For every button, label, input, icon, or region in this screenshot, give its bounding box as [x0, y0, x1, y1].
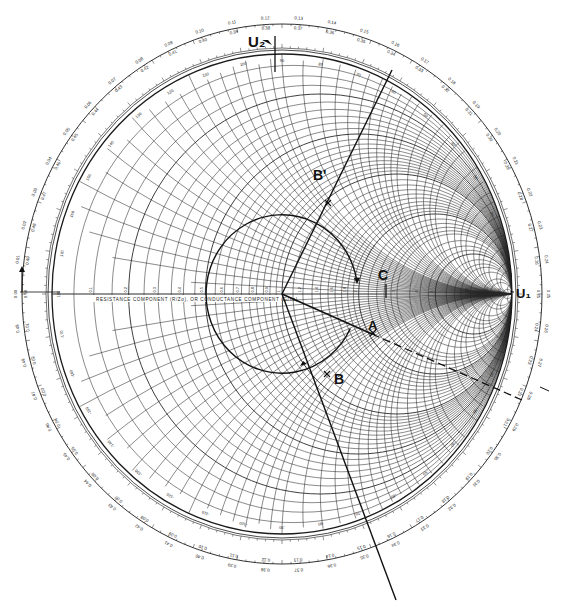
svg-text:0.25: 0.25	[546, 290, 551, 299]
svg-text:-110: -110	[200, 509, 210, 517]
svg-text:0.08: 0.08	[134, 56, 144, 65]
svg-text:0.29: 0.29	[511, 422, 520, 432]
svg-text:0.44: 0.44	[90, 106, 100, 116]
svg-text:1.2: 1.2	[297, 286, 302, 292]
svg-text:0.46: 0.46	[44, 422, 53, 432]
svg-text:-90: -90	[278, 525, 285, 530]
svg-text:0.07: 0.07	[107, 76, 117, 86]
svg-text:0.26: 0.26	[533, 256, 539, 266]
svg-text:140: 140	[107, 139, 116, 148]
svg-text:180: 180	[56, 290, 61, 297]
svg-text:0.01: 0.01	[15, 254, 21, 264]
svg-text:0.46: 0.46	[53, 160, 62, 170]
svg-text:0.06: 0.06	[83, 99, 93, 109]
svg-text:0.42: 0.42	[140, 64, 150, 73]
svg-text:0.14: 0.14	[325, 553, 335, 560]
svg-text:0.30: 0.30	[493, 452, 502, 462]
svg-text:120: 120	[166, 88, 175, 96]
svg-text:0.34: 0.34	[386, 49, 396, 57]
svg-text:0.27: 0.27	[527, 223, 534, 233]
svg-text:0.4: 0.4	[177, 286, 182, 292]
svg-text:0.47: 0.47	[30, 390, 38, 400]
svg-text:3: 3	[391, 290, 396, 293]
svg-text:0.48: 0.48	[30, 222, 37, 232]
svg-text:0.13: 0.13	[294, 15, 303, 21]
svg-text:-120: -120	[165, 492, 175, 501]
svg-text:0.45: 0.45	[70, 132, 79, 142]
svg-text:0.50: 0.50	[23, 289, 28, 298]
svg-text:0.33: 0.33	[414, 65, 424, 74]
svg-text:0.37: 0.37	[294, 25, 303, 31]
svg-text:1.8: 1.8	[342, 286, 347, 292]
svg-text:90: 90	[280, 58, 285, 63]
svg-text:0.20: 0.20	[485, 446, 494, 456]
svg-text:0.15: 0.15	[360, 27, 370, 35]
svg-text:0.8: 0.8	[250, 286, 255, 292]
svg-text:0.36: 0.36	[325, 29, 335, 36]
svg-text:1: 1	[276, 290, 281, 293]
svg-text:-140: -140	[106, 439, 115, 449]
svg-text:0.39: 0.39	[229, 29, 239, 36]
svg-text:0.37: 0.37	[294, 567, 303, 573]
svg-text:0.06: 0.06	[90, 471, 100, 481]
svg-text:0.16: 0.16	[386, 531, 396, 539]
svg-text:150: 150	[85, 172, 93, 181]
label-a: A	[368, 318, 378, 333]
svg-text:0.35: 0.35	[359, 553, 369, 561]
svg-text:1.6: 1.6	[329, 286, 334, 292]
svg-text:0.1: 0.1	[88, 286, 93, 292]
svg-text:0.14: 0.14	[327, 19, 337, 26]
svg-text:0.04: 0.04	[53, 417, 62, 427]
svg-text:160: 160	[68, 209, 75, 218]
svg-text:110: 110	[202, 71, 210, 78]
svg-text:20: 20	[484, 287, 489, 292]
svg-text:0.34: 0.34	[390, 540, 400, 548]
svg-text:0.02: 0.02	[20, 220, 27, 230]
svg-text:-130: -130	[133, 468, 143, 477]
svg-text:0.20: 0.20	[493, 127, 502, 137]
svg-text:0.22: 0.22	[526, 187, 534, 197]
svg-text:0.48: 0.48	[20, 357, 27, 367]
svg-text:-100: -100	[238, 521, 248, 527]
svg-text:0.18: 0.18	[447, 76, 457, 86]
label-u2: U₂	[248, 33, 266, 50]
svg-text:0.38: 0.38	[261, 25, 270, 31]
svg-text:0.49: 0.49	[25, 255, 31, 265]
svg-text:0.05: 0.05	[62, 126, 71, 136]
svg-text:0.31: 0.31	[464, 107, 474, 117]
svg-text:0.32: 0.32	[441, 84, 451, 94]
label-u1: U₁	[516, 286, 531, 301]
svg-text:0.19: 0.19	[464, 472, 474, 482]
axis-caption: RESISTANCE COMPONENT (R/Zo), OR CONDUCTA…	[96, 297, 298, 302]
svg-text:0.05: 0.05	[70, 445, 79, 455]
svg-text:0.17: 0.17	[420, 56, 430, 65]
svg-text:0.23: 0.23	[537, 220, 544, 230]
svg-text:0.7: 0.7	[235, 286, 240, 292]
svg-text:0.43: 0.43	[107, 502, 117, 512]
svg-text:0.01: 0.01	[24, 322, 30, 332]
svg-text:170: 170	[59, 249, 65, 257]
svg-text:0.31: 0.31	[471, 478, 481, 488]
svg-text:0.49: 0.49	[15, 324, 21, 334]
svg-text:0.9: 0.9	[264, 286, 269, 292]
svg-text:0.27: 0.27	[537, 358, 544, 368]
svg-text:0.18: 0.18	[440, 495, 450, 505]
svg-text:0.07: 0.07	[113, 494, 123, 504]
svg-text:0.09: 0.09	[167, 531, 177, 539]
svg-text:-170: -170	[59, 329, 65, 339]
svg-text:0.12: 0.12	[261, 15, 270, 21]
label-b: B	[334, 371, 344, 387]
svg-text:-50: -50	[421, 469, 429, 477]
svg-text:0.17: 0.17	[414, 515, 424, 524]
svg-text:0.42: 0.42	[134, 523, 144, 532]
svg-text:0.03: 0.03	[30, 187, 38, 197]
svg-text:0.28: 0.28	[526, 391, 534, 401]
svg-text:0.25: 0.25	[536, 290, 541, 299]
svg-text:0.04: 0.04	[44, 155, 53, 165]
svg-text:0.39: 0.39	[227, 562, 237, 569]
svg-text:-160: -160	[68, 369, 76, 379]
svg-text:0.26: 0.26	[543, 324, 549, 334]
svg-text:0.36: 0.36	[327, 562, 337, 569]
svg-text:0.23: 0.23	[527, 356, 534, 366]
svg-text:0.41: 0.41	[168, 49, 178, 57]
